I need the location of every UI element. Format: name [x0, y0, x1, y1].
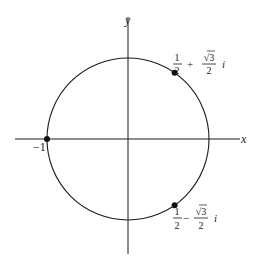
upper-sign: + — [187, 58, 193, 70]
upper-imag-numerator: √3 — [204, 52, 215, 63]
lower-real-numerator: 1 — [175, 206, 180, 217]
label-minus-one: −1 — [33, 140, 46, 154]
upper-real-numerator: 1 — [175, 52, 180, 63]
lower-imag-denominator: 2 — [199, 220, 204, 231]
x-axis-label: x — [240, 132, 247, 146]
label-upper-root: 1 2 + √3 2 i — [173, 51, 225, 76]
lower-imag-unit: i — [214, 212, 217, 224]
unit-circle-diagram: x y −1 1 2 + √3 2 i 1 2 − √3 2 i — [0, 0, 258, 266]
lower-real-denominator: 2 — [175, 220, 180, 231]
upper-imag-unit: i — [222, 58, 225, 70]
lower-sign: − — [183, 212, 189, 224]
label-lower-root: 1 2 − √3 2 i — [173, 205, 217, 231]
upper-real-denominator: 2 — [175, 65, 180, 76]
lower-imag-numerator: √3 — [196, 206, 207, 217]
upper-imag-denominator: 2 — [207, 65, 212, 76]
y-axis-label: y — [124, 13, 131, 27]
